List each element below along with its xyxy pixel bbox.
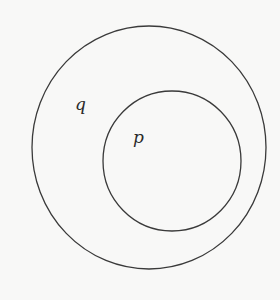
set-q-circle	[32, 26, 266, 269]
set-p-label: p	[133, 129, 144, 146]
set-p-circle	[103, 91, 241, 231]
set-q-label: q	[75, 96, 86, 113]
euler-diagram: q p	[0, 0, 280, 300]
diagram-svg	[0, 0, 280, 300]
